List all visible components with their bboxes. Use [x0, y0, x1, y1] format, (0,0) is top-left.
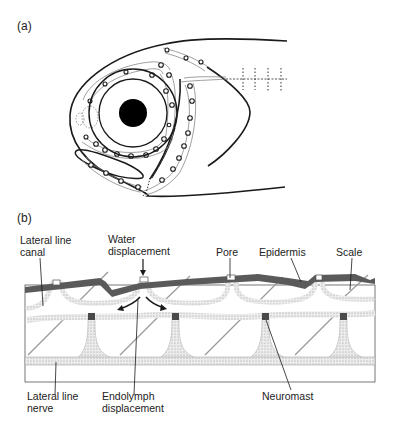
- label-neuromast: Neuromast: [262, 390, 313, 402]
- neuromast: [340, 313, 347, 320]
- label-pore: Pore: [216, 246, 238, 258]
- neuromast: [88, 313, 95, 320]
- label-water-displacement: Water displacement: [108, 233, 170, 257]
- label-endolymph-displacement: Endolymph displacement: [102, 390, 164, 414]
- label-scale: Scale: [336, 246, 362, 258]
- neuromast: [262, 313, 269, 320]
- label-lateral-line-nerve: Lateral line nerve: [27, 390, 78, 414]
- label-lateral-line-canal: Lateral line canal: [20, 234, 71, 258]
- lateral-line-cross-section: [0, 0, 395, 422]
- canal-floor: [27, 313, 375, 320]
- neuromast: [172, 313, 179, 320]
- lateral-line-nerve: [25, 357, 375, 365]
- label-epidermis: Epidermis: [259, 246, 306, 258]
